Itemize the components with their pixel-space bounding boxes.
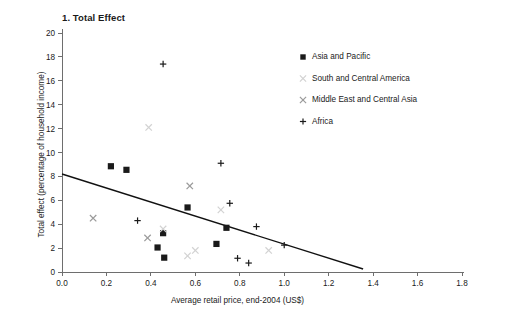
- y-tick-label: 14: [46, 101, 56, 110]
- data-point: [245, 260, 251, 266]
- y-tick-label: 16: [46, 77, 56, 86]
- data-point: [227, 200, 233, 206]
- y-tick-label: 18: [46, 53, 56, 62]
- data-point: [134, 217, 140, 223]
- x-tick-label: 1.8: [456, 279, 468, 288]
- y-tick-label: 6: [50, 196, 55, 205]
- data-point: [160, 61, 166, 67]
- legend-label: Asia and Pacific: [312, 52, 370, 61]
- data-point: [223, 225, 229, 231]
- x-tick-label: 1.2: [323, 279, 335, 288]
- x-tick-label: 0.8: [234, 279, 246, 288]
- series-africa: [134, 61, 287, 266]
- y-tick-label: 10: [46, 149, 56, 158]
- y-tick-label: 8: [50, 172, 55, 181]
- data-point: [123, 167, 129, 173]
- legend-label: Middle East and Central Asia: [312, 95, 418, 104]
- data-point: [253, 223, 259, 229]
- data-point: [108, 163, 114, 169]
- x-tick-label: 1.0: [279, 279, 291, 288]
- x-tick-label: 0.6: [190, 279, 202, 288]
- x-tick-label: 1.6: [412, 279, 424, 288]
- series-middle-east-and-central-asia: [90, 183, 193, 241]
- data-point: [144, 235, 150, 241]
- x-tick-label: 1.4: [367, 279, 379, 288]
- legend-marker: [300, 75, 306, 81]
- legend-label: Africa: [312, 117, 333, 126]
- y-tick-label: 20: [46, 29, 56, 38]
- chart-figure: 1. Total Effect Total effect (percentage…: [0, 0, 525, 320]
- legend-label: South and Central America: [312, 74, 410, 83]
- data-point: [218, 160, 224, 166]
- chart-legend: Asia and PacificSouth and Central Americ…: [300, 52, 418, 126]
- y-tick-label: 0: [50, 268, 55, 277]
- data-point: [234, 255, 240, 261]
- y-tick-label: 12: [46, 125, 56, 134]
- series-asia-and-pacific: [108, 163, 230, 261]
- data-point: [187, 183, 193, 189]
- data-point: [90, 215, 96, 221]
- data-point: [145, 124, 151, 130]
- legend-marker: [300, 54, 305, 59]
- legend-marker: [300, 118, 306, 124]
- data-point: [154, 244, 160, 250]
- trend-line: [62, 174, 363, 269]
- x-tick-label: 0.2: [101, 279, 113, 288]
- y-axis-ticks: 02468101214161820: [46, 29, 62, 277]
- x-tick-label: 0.0: [56, 279, 68, 288]
- data-point: [184, 253, 190, 259]
- data-point: [192, 247, 198, 253]
- data-point: [184, 204, 190, 210]
- data-point: [265, 247, 271, 253]
- data-point: [213, 241, 219, 247]
- data-point: [218, 207, 224, 213]
- series-south-and-central-america: [145, 124, 271, 259]
- scatter-plot: 02468101214161820 0.00.20.40.60.81.01.21…: [0, 0, 525, 320]
- x-axis-ticks: 0.00.20.40.60.81.01.21.41.61.8: [56, 272, 468, 288]
- y-tick-label: 2: [50, 244, 55, 253]
- data-point: [161, 255, 167, 261]
- legend-marker: [300, 97, 306, 103]
- y-tick-label: 4: [50, 220, 55, 229]
- x-tick-label: 0.4: [145, 279, 157, 288]
